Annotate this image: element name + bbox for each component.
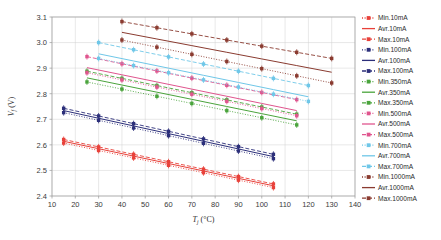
legend-label: Avr.1000mA: [378, 184, 414, 191]
data-point-marker: [97, 41, 100, 44]
legend-label: Max.700mA: [378, 163, 414, 170]
data-point-marker: [330, 81, 333, 84]
data-point-marker: [155, 26, 158, 29]
data-point-marker: [260, 44, 263, 47]
data-point-marker: [295, 74, 298, 77]
legend-marker-swatch: [367, 37, 371, 41]
y-axis-title: Vf (V): [7, 96, 17, 116]
legend-marker-swatch: [367, 101, 371, 105]
data-point-marker: [155, 45, 158, 48]
data-point-marker: [97, 57, 100, 60]
legend-label: Max.1000mA: [378, 195, 417, 202]
svg-text:Tj (°C): Tj (°C): [193, 215, 215, 225]
data-point-marker: [202, 62, 205, 65]
data-point-marker: [260, 107, 263, 110]
x-tick-label: 110: [279, 200, 291, 209]
data-point-marker: [97, 145, 100, 148]
data-point-marker: [167, 130, 170, 133]
legend-marker-swatch: [367, 69, 371, 73]
x-tick-label: 130: [325, 200, 338, 209]
data-point-marker: [62, 138, 65, 141]
x-tick-label: 20: [71, 200, 79, 209]
data-point-marker: [132, 126, 135, 129]
data-point-marker: [295, 51, 298, 54]
data-point-marker: [120, 78, 123, 81]
data-point-marker: [272, 182, 275, 185]
x-tick-label: 80: [211, 200, 219, 209]
legend-label: Avr.500mA: [378, 120, 411, 127]
data-point-marker: [225, 38, 228, 41]
data-point-marker: [62, 111, 65, 114]
x-tick-label: 10: [48, 200, 56, 209]
data-point-marker: [295, 123, 298, 126]
data-point-marker: [85, 80, 88, 83]
data-point-marker: [97, 114, 100, 117]
data-point-marker: [272, 153, 275, 156]
data-point-marker: [225, 100, 228, 103]
y-tick-label: 2.8: [37, 90, 47, 99]
legend-label: Avr.350mA: [378, 89, 411, 96]
legend-marker-swatch: [367, 175, 371, 179]
legend-label: Min.350mA: [378, 78, 412, 85]
legend-marker-swatch: [367, 16, 371, 20]
data-point-marker: [237, 145, 240, 148]
data-point-marker: [307, 84, 310, 87]
data-point-marker: [190, 102, 193, 105]
data-point-marker: [132, 48, 135, 51]
data-point-marker: [190, 53, 193, 56]
legend-label: Max.500mA: [378, 131, 414, 138]
legend-marker-swatch: [367, 112, 371, 116]
x-axis-title: Tj (°C): [193, 215, 215, 225]
y-tick-label: 2.7: [37, 115, 47, 124]
legend-label: Min.100mA: [378, 46, 412, 53]
data-point-marker: [260, 116, 263, 119]
data-point-marker: [225, 109, 228, 112]
legend-label: Avr.10mA: [378, 25, 407, 32]
x-tick-label: 140: [349, 200, 362, 209]
y-tick-label: 3.1: [37, 13, 47, 22]
x-tick-label: 60: [164, 200, 172, 209]
x-tick-label: 120: [302, 200, 315, 209]
plot-background: [0, 0, 441, 240]
vf-vs-tj-chart: 102030405060708090100110120130140 2.42.5…: [0, 0, 441, 240]
legend-label: Avr.100mA: [378, 57, 411, 64]
data-point-marker: [85, 55, 88, 58]
x-tick-label: 50: [141, 200, 149, 209]
data-point-marker: [120, 62, 123, 65]
legend-label: Min.700mA: [378, 142, 412, 149]
data-point-marker: [120, 38, 123, 41]
y-tick-label: 3.0: [37, 38, 47, 47]
chart-container: 102030405060708090100110120130140 2.42.5…: [0, 0, 441, 240]
y-tick-label: 2.4: [37, 192, 47, 201]
data-point-marker: [330, 57, 333, 60]
data-point-marker: [202, 137, 205, 140]
legend-label: Max.350mA: [378, 99, 414, 106]
data-point-marker: [237, 85, 240, 88]
data-point-marker: [167, 134, 170, 137]
data-point-marker: [85, 71, 88, 74]
legend-label: Min.1000mA: [378, 173, 416, 180]
data-point-marker: [202, 142, 205, 145]
data-point-marker: [307, 100, 310, 103]
legend-label: Max.10mA: [378, 36, 410, 43]
data-point-marker: [167, 55, 170, 58]
legend-marker-swatch: [367, 143, 371, 147]
data-point-marker: [272, 77, 275, 80]
legend-marker-swatch: [367, 133, 371, 137]
legend-label: Min.10mA: [378, 14, 408, 21]
data-point-marker: [132, 122, 135, 125]
legend-marker-swatch: [367, 80, 371, 84]
data-point-marker: [260, 91, 263, 94]
y-tick-label: 2.5: [37, 166, 47, 175]
legend-marker-swatch: [367, 48, 371, 52]
legend-marker-swatch: [367, 196, 371, 200]
legend-label: Min.500mA: [378, 110, 412, 117]
data-point-marker: [237, 149, 240, 152]
data-point-marker: [225, 84, 228, 87]
data-point-marker: [260, 67, 263, 70]
x-tick-label: 30: [94, 200, 102, 209]
data-point-marker: [295, 114, 298, 117]
data-point-marker: [62, 107, 65, 110]
x-tick-label: 70: [188, 200, 196, 209]
data-point-marker: [237, 175, 240, 178]
